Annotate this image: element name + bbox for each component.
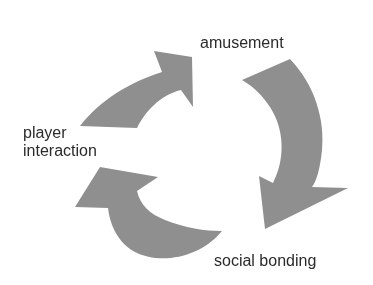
node-label-player-interaction: player interaction (23, 124, 97, 160)
node-label-social-bonding: social bonding (214, 252, 316, 270)
node-label-player-line2: interaction (23, 142, 97, 160)
cycle-diagram: amusement player interaction social bond… (0, 0, 373, 285)
arrow-amusement-to-social-icon (242, 59, 348, 229)
arrow-player-to-amusement-icon (80, 51, 193, 128)
node-label-amusement: amusement (200, 34, 284, 52)
node-label-player-line1: player (23, 124, 97, 142)
arrow-social-to-player-icon (75, 167, 222, 258)
